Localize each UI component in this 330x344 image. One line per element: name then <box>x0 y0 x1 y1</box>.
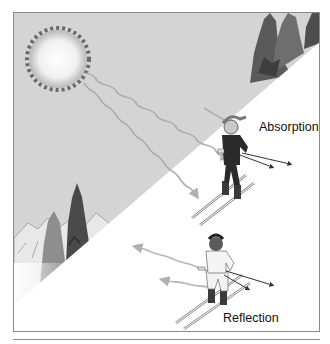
sun-icon <box>27 28 89 90</box>
illustration-canvas <box>14 13 320 332</box>
reflection-label: Reflection <box>223 311 279 325</box>
absorption-label: Absorption <box>259 120 319 134</box>
bottom-divider <box>13 339 320 340</box>
illustration-frame: Absorption Reflection <box>13 12 320 332</box>
snow-fade <box>14 263 74 332</box>
